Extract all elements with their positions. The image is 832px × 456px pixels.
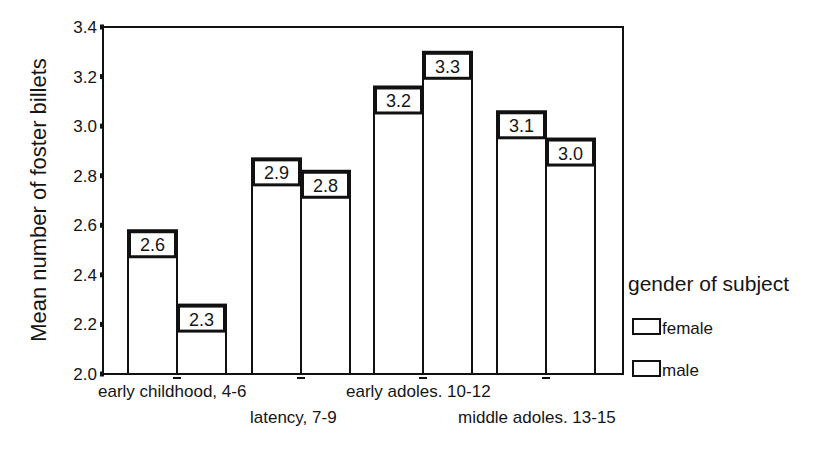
x-category-label: early childhood, 4-6 xyxy=(98,382,246,401)
bar-value-label: 2.9 xyxy=(264,163,289,183)
legend-label-male: male xyxy=(662,361,699,380)
bar-value-label: 3.2 xyxy=(386,91,411,111)
x-tick-mark xyxy=(419,377,427,379)
y-tick-mark xyxy=(100,25,104,30)
y-tick-mark xyxy=(100,322,104,327)
bar-value-label: 3.1 xyxy=(509,116,534,136)
y-tick-label: 2.6 xyxy=(73,216,97,235)
bar-value-label: 2.3 xyxy=(189,310,214,330)
y-tick-label: 3.2 xyxy=(73,68,97,87)
y-tick-label: 3.4 xyxy=(73,18,97,37)
bar-male: 3.3 xyxy=(423,52,472,374)
x-category-label: latency, 7-9 xyxy=(250,408,337,427)
legend-swatch-female xyxy=(633,319,660,334)
legend: gender of subject female male xyxy=(628,272,789,380)
x-tick-mark xyxy=(542,377,550,379)
bar-male: 3.0 xyxy=(546,139,595,374)
bar-female: 3.2 xyxy=(374,86,423,374)
y-tick-mark xyxy=(100,173,104,178)
bar-female: 3.1 xyxy=(497,111,546,374)
bar-male: 2.8 xyxy=(301,171,350,374)
bar-female: 2.9 xyxy=(252,158,301,374)
y-tick-mark xyxy=(100,223,104,228)
x-category-label: middle adoles. 13-15 xyxy=(458,408,616,427)
bar-female: 2.6 xyxy=(128,230,177,374)
y-axis-ticks: 2.02.22.42.62.83.03.23.4 xyxy=(73,18,104,384)
y-tick-label: 2.2 xyxy=(73,315,97,334)
legend-title: gender of subject xyxy=(628,272,789,295)
y-tick-label: 2.4 xyxy=(73,266,97,285)
bar-male: 2.3 xyxy=(177,305,226,374)
x-category-label: early adoles. 10-12 xyxy=(346,382,491,401)
bar-value-label: 3.3 xyxy=(435,57,460,77)
y-axis-label: Mean number of foster billets xyxy=(26,58,51,342)
bar-chart: Mean number of foster billets 2.02.22.42… xyxy=(0,0,832,456)
bars-group: 2.62.32.92.83.23.33.13.0 xyxy=(128,52,595,379)
y-tick-label: 2.8 xyxy=(73,167,97,186)
legend-swatch-male xyxy=(633,361,660,376)
y-tick-mark xyxy=(100,74,104,79)
x-tick-mark xyxy=(173,377,181,379)
x-tick-mark xyxy=(297,377,305,379)
y-tick-mark xyxy=(100,124,104,129)
bar-value-label: 2.6 xyxy=(140,235,165,255)
legend-label-female: female xyxy=(662,319,713,338)
x-axis-labels: early childhood, 4-6latency, 7-9early ad… xyxy=(98,382,616,427)
y-tick-mark xyxy=(100,272,104,277)
y-tick-label: 3.0 xyxy=(73,117,97,136)
bar-value-label: 3.0 xyxy=(558,144,583,164)
bar-value-label: 2.8 xyxy=(313,176,338,196)
y-tick-mark xyxy=(100,372,104,377)
y-tick-label: 2.0 xyxy=(73,365,97,384)
